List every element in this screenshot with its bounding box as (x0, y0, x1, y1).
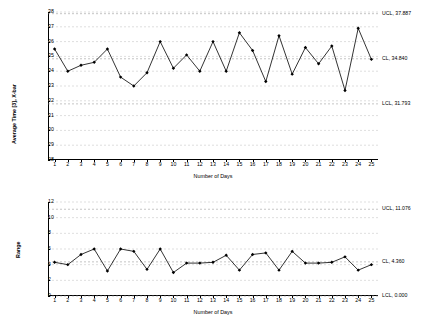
xbar-x-tick-mark (107, 160, 108, 162)
xbar-x-tick: 9 (159, 162, 162, 167)
xbar-y-tick-mark (48, 71, 50, 72)
range-y-tick-mark (48, 265, 50, 266)
xbar-y-tick-mark (48, 130, 50, 131)
xbar-x-tick: 4 (93, 162, 96, 167)
range-x-tick: 4 (93, 298, 96, 303)
xbar-y-tick-mark (48, 42, 50, 43)
xbar-x-tick: 13 (210, 162, 216, 167)
range-x-tick: 16 (250, 298, 256, 303)
range-x-tick-mark (305, 296, 306, 298)
chart-page: Average Time [3], X-bar Number of Days U… (0, 0, 426, 329)
range-x-tick-mark (332, 296, 333, 298)
xbar-x-tick: 12 (197, 162, 203, 167)
xbar-x-tick: 24 (355, 162, 361, 167)
range-x-tick: 24 (355, 298, 361, 303)
range-x-tick-mark (279, 296, 280, 298)
range-x-tick-mark (266, 296, 267, 298)
range-x-tick-mark (173, 296, 174, 298)
xbar-y-axis-label: Average Time [3], X-bar (12, 84, 17, 144)
xbar-data-point (357, 27, 360, 30)
range-x-tick: 2 (66, 298, 69, 303)
xbar-x-tick: 6 (119, 162, 122, 167)
xbar-y-tick-mark (48, 86, 50, 87)
xbar-chart: Average Time [3], X-bar Number of Days U… (0, 0, 426, 186)
xbar-y-tick-mark (48, 116, 50, 117)
range-y-tick-mark (48, 296, 50, 297)
range-x-tick-mark (134, 296, 135, 298)
range-x-tick: 7 (132, 298, 135, 303)
range-x-tick: 14 (223, 298, 229, 303)
range-x-tick-mark (253, 296, 254, 298)
range-x-tick: 6 (119, 298, 122, 303)
range-x-tick: 9 (159, 298, 162, 303)
range-x-tick-mark (187, 296, 188, 298)
xbar-x-tick: 21 (316, 162, 322, 167)
range-x-tick: 8 (146, 298, 149, 303)
xbar-x-tick: 1 (53, 162, 56, 167)
range-x-axis-label: Number of Days (163, 310, 263, 315)
range-x-tick: 5 (106, 298, 109, 303)
xbar-x-axis-label: Number of Days (163, 174, 263, 179)
range-x-tick-mark (371, 296, 372, 298)
xbar-x-tick-mark (81, 160, 82, 162)
xbar-y-tick-mark (48, 56, 50, 57)
range-y-axis-label: Range (16, 242, 21, 258)
range-y-tick-mark (48, 202, 50, 203)
range-x-tick-mark (94, 296, 95, 298)
xbar-x-tick: 15 (237, 162, 243, 167)
range-x-tick-mark (319, 296, 320, 298)
range-x-tick-mark (107, 296, 108, 298)
xbar-x-tick-mark (213, 160, 214, 162)
range-x-tick-mark (81, 296, 82, 298)
xbar-x-tick-mark (226, 160, 227, 162)
xbar-svg (48, 12, 378, 160)
xbar-x-tick: 17 (263, 162, 269, 167)
xbar-x-tick-mark (187, 160, 188, 162)
range-x-tick-mark (213, 296, 214, 298)
xbar-x-tick-mark (305, 160, 306, 162)
xbar-x-tick-mark (239, 160, 240, 162)
xbar-data-point (211, 40, 214, 43)
xbar-x-tick: 10 (171, 162, 177, 167)
range-x-tick: 12 (197, 298, 203, 303)
xbar-x-tick-mark (134, 160, 135, 162)
range-x-tick-mark (68, 296, 69, 298)
range-x-tick-mark (345, 296, 346, 298)
xbar-x-tick: 16 (250, 162, 256, 167)
xbar-x-tick-mark (160, 160, 161, 162)
xbar-x-tick: 20 (303, 162, 309, 167)
xbar-x-tick-mark (279, 160, 280, 162)
range-x-tick: 13 (210, 298, 216, 303)
xbar-x-tick-mark (319, 160, 320, 162)
xbar-x-tick: 11 (184, 162, 189, 167)
range-x-tick: 20 (303, 298, 309, 303)
xbar-x-tick: 18 (276, 162, 282, 167)
xbar-data-point (66, 70, 69, 73)
xbar-x-tick: 3 (80, 162, 83, 167)
range-data-point (119, 247, 122, 250)
xbar-data-point (370, 58, 373, 61)
range-x-tick-mark (292, 296, 293, 298)
xbar-x-tick: 23 (342, 162, 348, 167)
range-y-tick-mark (48, 280, 50, 281)
xbar-data-point (225, 70, 228, 73)
xbar-x-tick-mark (68, 160, 69, 162)
range-data-point (53, 261, 56, 264)
range-data-point (211, 261, 214, 264)
xbar-data-point (291, 72, 294, 75)
range-x-tick: 18 (276, 298, 282, 303)
range-x-tick-mark (239, 296, 240, 298)
xbar-data-point (264, 80, 267, 83)
xbar-series-line (55, 28, 372, 90)
xbar-data-point (159, 40, 162, 43)
xbar-x-tick-mark (94, 160, 95, 162)
range-x-tick: 10 (171, 298, 177, 303)
xbar-x-tick-mark (266, 160, 267, 162)
range-x-tick: 21 (316, 298, 322, 303)
range-x-tick: 1 (53, 298, 56, 303)
xbar-x-tick-mark (173, 160, 174, 162)
range-x-tick-mark (121, 296, 122, 298)
range-x-tick: 17 (263, 298, 269, 303)
range-svg (48, 202, 378, 296)
range-data-point (370, 263, 373, 266)
